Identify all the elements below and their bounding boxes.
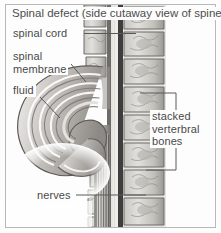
label-spinal-cord: spinal cord bbox=[11, 27, 69, 40]
label-nerves: nerves bbox=[35, 189, 73, 202]
label-fluid: fluid bbox=[11, 84, 36, 97]
label-stacked-vertebral-bones: stacked verterbral bones bbox=[150, 110, 201, 148]
figure-title: Spinal defect (side cutaway view of spin… bbox=[11, 7, 221, 20]
spinal-defect-figure: Spinal defect (side cutaway view of spin… bbox=[0, 0, 221, 233]
leader-line-spinal-cord bbox=[84, 33, 136, 34]
label-spinal-membrane: spinal membrane bbox=[11, 50, 68, 75]
